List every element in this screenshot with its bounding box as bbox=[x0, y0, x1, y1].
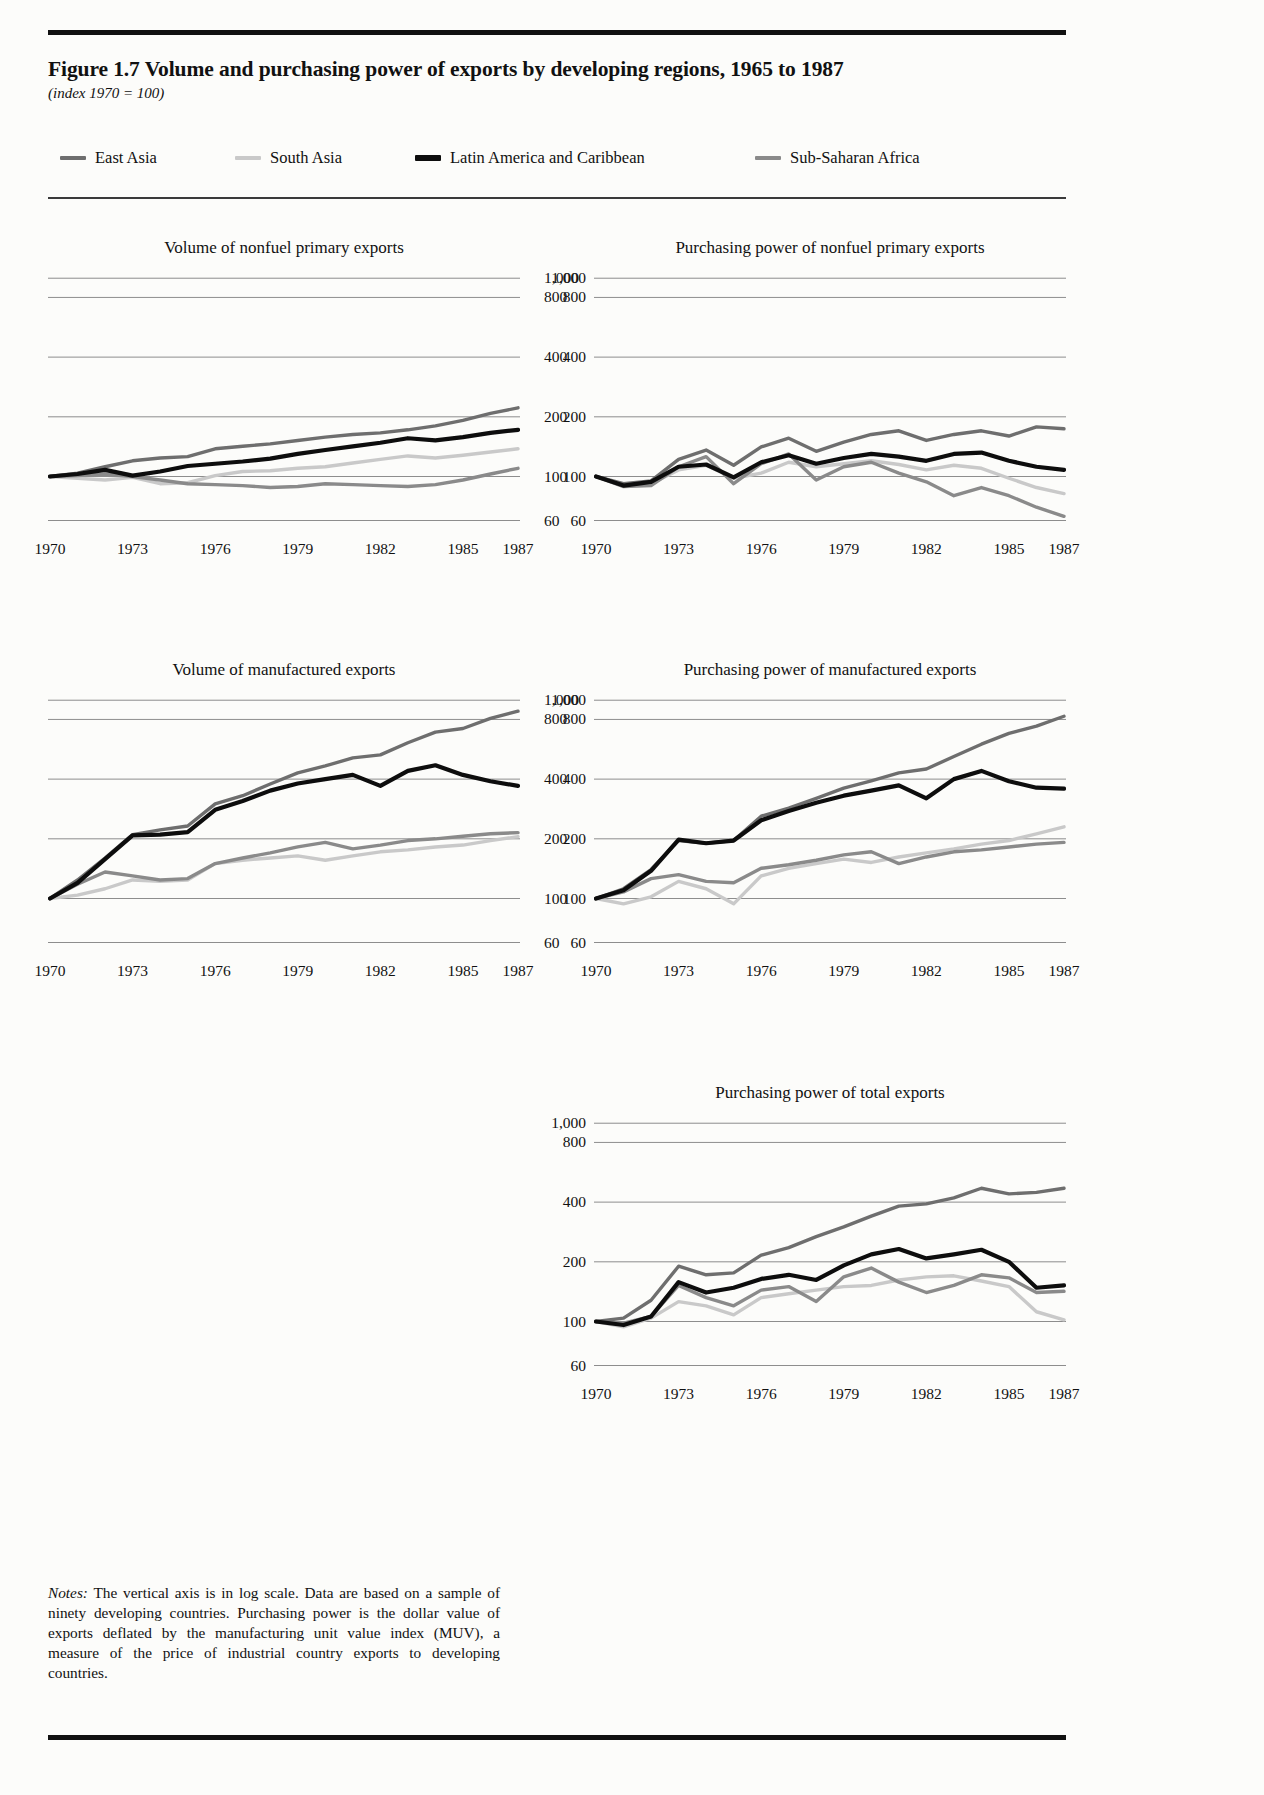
figure-title: Figure 1.7 Volume and purchasing power o… bbox=[48, 57, 1058, 82]
y-tick-label: 200 bbox=[536, 830, 586, 848]
x-tick-label: 1970 bbox=[581, 540, 612, 558]
plot-area bbox=[48, 270, 520, 528]
x-tick-label: 1987 bbox=[1049, 962, 1080, 980]
y-axis-labels: 1,00080040020010060 bbox=[536, 1115, 586, 1373]
legend-swatch-south-asia bbox=[235, 156, 261, 160]
x-tick-label: 1970 bbox=[35, 962, 66, 980]
legend-swatch-east-asia bbox=[60, 156, 86, 160]
legend-swatch-sub-saharan-africa bbox=[755, 156, 781, 160]
x-tick-label: 1973 bbox=[663, 540, 694, 558]
legend-swatch-latin-america-and-caribbean bbox=[415, 155, 441, 161]
panel-purchasing-power-total: Purchasing power of total exports1,00080… bbox=[594, 1085, 1066, 1415]
x-tick-label: 1976 bbox=[746, 1385, 777, 1403]
plot-area bbox=[594, 1115, 1066, 1373]
series-line bbox=[596, 454, 1064, 516]
legend-label-east-asia: East Asia bbox=[95, 148, 157, 168]
series-line bbox=[50, 711, 518, 898]
y-tick-label: 100 bbox=[536, 468, 586, 486]
figure-notes: Notes: The vertical axis is in log scale… bbox=[48, 1583, 500, 1682]
x-tick-label: 1979 bbox=[828, 1385, 859, 1403]
x-tick-label: 1985 bbox=[993, 1385, 1024, 1403]
x-tick-label: 1987 bbox=[503, 962, 534, 980]
panel-title: Volume of nonfuel primary exports bbox=[48, 238, 520, 258]
x-tick-label: 1985 bbox=[993, 962, 1024, 980]
x-axis-labels: 1970197319761979198219851987 bbox=[594, 962, 1066, 982]
y-tick-label: 60 bbox=[536, 512, 586, 530]
x-tick-label: 1973 bbox=[663, 1385, 694, 1403]
panel-title: Purchasing power of total exports bbox=[594, 1083, 1066, 1103]
panel-title: Volume of manufactured exports bbox=[48, 660, 520, 680]
y-tick-label: 1,000 bbox=[536, 1114, 586, 1132]
x-tick-label: 1970 bbox=[35, 540, 66, 558]
x-tick-label: 1976 bbox=[200, 962, 231, 980]
y-tick-label: 800 bbox=[536, 288, 586, 306]
legend-label-sub-saharan-africa: Sub-Saharan Africa bbox=[790, 148, 920, 168]
bottom-rule bbox=[48, 1735, 1066, 1740]
notes-text: The vertical axis is in log scale. Data … bbox=[48, 1584, 500, 1681]
x-tick-label: 1979 bbox=[282, 962, 313, 980]
x-tick-label: 1970 bbox=[581, 962, 612, 980]
y-tick-label: 400 bbox=[536, 348, 586, 366]
x-tick-label: 1982 bbox=[911, 540, 942, 558]
x-tick-label: 1973 bbox=[117, 540, 148, 558]
legend-label-latin-america-and-caribbean: Latin America and Caribbean bbox=[450, 148, 645, 168]
x-axis-labels: 1970197319761979198219851987 bbox=[48, 540, 520, 560]
y-tick-label: 100 bbox=[536, 890, 586, 908]
y-tick-label: 800 bbox=[536, 710, 586, 728]
series-line bbox=[596, 771, 1064, 899]
figure-page: Figure 1.7 Volume and purchasing power o… bbox=[0, 0, 1264, 1795]
y-tick-label: 400 bbox=[536, 770, 586, 788]
y-axis-labels: 1,00080040020010060 bbox=[536, 692, 586, 950]
x-axis-labels: 1970197319761979198219851987 bbox=[594, 540, 1066, 560]
x-tick-label: 1979 bbox=[828, 540, 859, 558]
y-tick-label: 800 bbox=[536, 1133, 586, 1151]
x-tick-label: 1982 bbox=[365, 540, 396, 558]
y-tick-label: 1,000 bbox=[536, 269, 586, 287]
x-tick-label: 1982 bbox=[365, 962, 396, 980]
x-tick-label: 1976 bbox=[746, 540, 777, 558]
panel-title: Purchasing power of manufactured exports bbox=[594, 660, 1066, 680]
plot-area bbox=[48, 692, 520, 950]
legend-divider bbox=[48, 197, 1066, 199]
x-tick-label: 1979 bbox=[828, 962, 859, 980]
legend-item-south-asia[interactable]: South Asia bbox=[235, 148, 342, 168]
legend-item-sub-saharan-africa[interactable]: Sub-Saharan Africa bbox=[755, 148, 920, 168]
plot-area bbox=[594, 270, 1066, 528]
x-tick-label: 1987 bbox=[1049, 1385, 1080, 1403]
legend: East Asia South Asia Latin America and C… bbox=[60, 148, 1060, 174]
series-line bbox=[50, 833, 518, 899]
y-tick-label: 200 bbox=[536, 408, 586, 426]
legend-label-south-asia: South Asia bbox=[270, 148, 342, 168]
series-line bbox=[596, 716, 1064, 898]
panel-volume-manufactured: Volume of manufactured exports1,00080040… bbox=[48, 662, 520, 992]
x-tick-label: 1982 bbox=[911, 962, 942, 980]
legend-item-latin-america-and-caribbean[interactable]: Latin America and Caribbean bbox=[415, 148, 645, 168]
x-tick-label: 1982 bbox=[911, 1385, 942, 1403]
panel-purchasing-power-nonfuel-primary: Purchasing power of nonfuel primary expo… bbox=[594, 240, 1066, 570]
plot-area bbox=[594, 692, 1066, 950]
x-tick-label: 1979 bbox=[282, 540, 313, 558]
figure-subtitle: (index 1970 = 100) bbox=[48, 85, 164, 102]
y-tick-label: 60 bbox=[536, 934, 586, 952]
series-line bbox=[50, 765, 518, 898]
x-tick-label: 1985 bbox=[993, 540, 1024, 558]
x-tick-label: 1973 bbox=[663, 962, 694, 980]
notes-label: Notes: bbox=[48, 1584, 88, 1601]
x-tick-label: 1976 bbox=[746, 962, 777, 980]
y-tick-label: 1,000 bbox=[536, 691, 586, 709]
panel-purchasing-power-manufactured: Purchasing power of manufactured exports… bbox=[594, 662, 1066, 992]
series-line bbox=[50, 449, 518, 484]
x-tick-label: 1987 bbox=[1049, 540, 1080, 558]
legend-item-east-asia[interactable]: East Asia bbox=[60, 148, 157, 168]
x-tick-label: 1976 bbox=[200, 540, 231, 558]
panel-title: Purchasing power of nonfuel primary expo… bbox=[594, 238, 1066, 258]
x-axis-labels: 1970197319761979198219851987 bbox=[594, 1385, 1066, 1405]
y-tick-label: 200 bbox=[536, 1253, 586, 1271]
x-tick-label: 1985 bbox=[447, 962, 478, 980]
series-line bbox=[50, 408, 518, 477]
x-tick-label: 1985 bbox=[447, 540, 478, 558]
panel-volume-nonfuel-primary: Volume of nonfuel primary exports1,00080… bbox=[48, 240, 520, 570]
y-tick-label: 100 bbox=[536, 1313, 586, 1331]
x-tick-label: 1973 bbox=[117, 962, 148, 980]
top-rule bbox=[48, 30, 1066, 35]
